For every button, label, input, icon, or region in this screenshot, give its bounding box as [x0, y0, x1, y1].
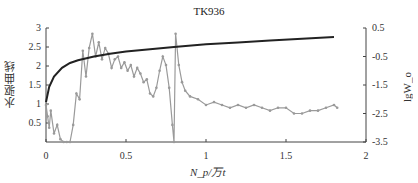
y2-tick-label: -3.5: [372, 136, 388, 147]
y-tick-label: 2.5: [29, 41, 42, 52]
series-lgw: [45, 32, 339, 143]
y-tick-label: 1.5: [29, 79, 42, 90]
y-ticks-right: 0.5-0.5-1.5-2.5-3.5: [363, 22, 388, 147]
y-tick-label: 2: [36, 60, 41, 71]
x-tick-label: 1.5: [280, 150, 293, 161]
y-tick-label: 3: [36, 22, 41, 33]
chart-area: 00.511.52 0.511.522.53 0.5-0.5-1.5-2.5-3…: [0, 0, 418, 183]
y-axis-label-right: lgW_o: [401, 72, 413, 102]
y2-tick-label: -0.5: [372, 51, 388, 62]
y-tick-label: 0.5: [29, 117, 42, 128]
x-axis-label: N_p/万t: [190, 163, 225, 179]
y2-tick-label: 0.5: [372, 22, 385, 33]
x-tick-label: 1: [204, 150, 209, 161]
y-tick-label: 1: [36, 98, 41, 109]
x-tick-label: 2: [364, 150, 369, 161]
y2-tick-label: -1.5: [372, 79, 388, 90]
x-tick-label: 0: [44, 150, 49, 161]
y2-tick-label: -2.5: [372, 108, 388, 119]
y-axis-label-left: 水驱曲线: [2, 60, 18, 108]
x-tick-label: 0.5: [120, 150, 133, 161]
